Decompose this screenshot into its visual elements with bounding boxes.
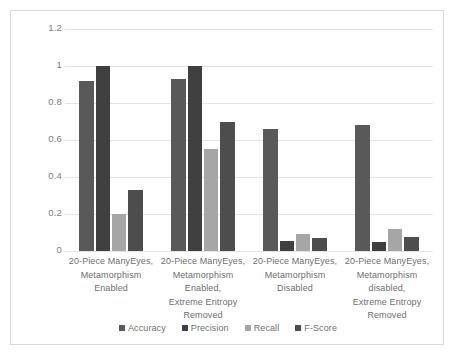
category-label-line: Extreme Entropy — [341, 296, 433, 310]
y-axis-tick-label: 0.4 — [43, 170, 62, 182]
bar-f-score[interactable] — [220, 122, 234, 252]
legend-swatch-icon — [182, 325, 188, 331]
bar-recall[interactable] — [112, 214, 126, 251]
category-axis-labels: 20-Piece ManyEyes,Metamorphism Enabled20… — [65, 255, 433, 317]
legend-label: Recall — [254, 323, 280, 333]
legend-label: Precision — [191, 323, 229, 333]
bar-group — [249, 29, 341, 251]
plot-area: 00.20.40.60.811.2 — [43, 29, 433, 251]
chart-legend: AccuracyPrecisionRecallF-Score — [11, 323, 445, 333]
category-label-line: 20-Piece ManyEyes, — [341, 255, 433, 269]
bar-accuracy[interactable] — [355, 125, 369, 251]
bar-group — [341, 29, 433, 251]
bar-recall[interactable] — [204, 149, 218, 251]
y-axis-tick-label: 1.2 — [43, 22, 62, 34]
y-axis-tick-label: 0.6 — [43, 133, 62, 145]
bar-group — [65, 29, 157, 251]
legend-label: F-Score — [304, 323, 337, 333]
legend-swatch-icon — [295, 325, 301, 331]
bar-precision[interactable] — [280, 241, 294, 251]
legend-label: Accuracy — [128, 323, 166, 333]
chart-container: 00.20.40.60.811.2 20-Piece ManyEyes,Meta… — [10, 10, 444, 345]
category-label-line: Metamorphism Enabled — [65, 269, 157, 296]
bar-accuracy[interactable] — [263, 129, 277, 251]
legend-item-accuracy[interactable]: Accuracy — [119, 323, 166, 333]
y-axis-tick-label: 0.2 — [43, 207, 62, 219]
category-label-line: 20-Piece ManyEyes, — [65, 255, 157, 269]
category-label: 20-Piece ManyEyes,Metamorphism Enabled,E… — [157, 255, 249, 323]
category-label: 20-Piece ManyEyes,Metamorphism Disabled — [249, 255, 341, 296]
y-axis-tick-label: 1 — [43, 59, 62, 71]
bar-accuracy[interactable] — [79, 81, 93, 251]
category-label-line: Metamorphism Disabled — [249, 269, 341, 296]
category-label: 20-Piece ManyEyes,Metamorphism Enabled — [65, 255, 157, 296]
category-label-line: Extreme Entropy — [157, 296, 249, 310]
bar-precision[interactable] — [188, 66, 202, 251]
bar-precision[interactable] — [372, 242, 386, 251]
y-axis-tick-label: 0 — [43, 244, 62, 256]
category-label-line: 20-Piece ManyEyes, — [249, 255, 341, 269]
bar-recall[interactable] — [388, 229, 402, 251]
legend-swatch-icon — [245, 325, 251, 331]
bar-accuracy[interactable] — [171, 79, 185, 251]
legend-item-recall[interactable]: Recall — [245, 323, 280, 333]
category-label-line: Removed — [157, 309, 249, 323]
legend-swatch-icon — [119, 325, 125, 331]
category-label-line: 20-Piece ManyEyes, — [157, 255, 249, 269]
bars-layer — [65, 29, 433, 251]
bar-f-score[interactable] — [404, 237, 418, 251]
category-label-line: Removed — [341, 309, 433, 323]
bar-f-score[interactable] — [128, 190, 142, 251]
category-label-line: Metamorphism disabled, — [341, 269, 433, 296]
legend-item-precision[interactable]: Precision — [182, 323, 229, 333]
legend-item-f-score[interactable]: F-Score — [295, 323, 337, 333]
gridline — [65, 251, 433, 252]
bar-group — [157, 29, 249, 251]
bar-precision[interactable] — [96, 66, 110, 251]
category-label: 20-Piece ManyEyes,Metamorphism disabled,… — [341, 255, 433, 323]
bar-recall[interactable] — [296, 234, 310, 251]
bar-f-score[interactable] — [312, 238, 326, 251]
category-label-line: Metamorphism Enabled, — [157, 269, 249, 296]
y-axis-tick-label: 0.8 — [43, 96, 62, 108]
